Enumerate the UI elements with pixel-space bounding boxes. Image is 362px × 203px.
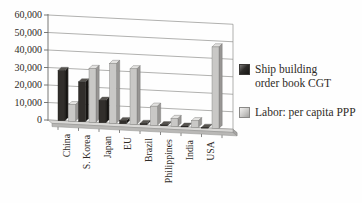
y-tick-label: 20,000 [15, 79, 43, 90]
category-label: Brazil [143, 138, 154, 162]
bar-cgt-usa [202, 127, 209, 128]
gridline [48, 33, 233, 42]
legend-line: order book CGT [255, 77, 331, 89]
y-tick-label: 0 [37, 114, 42, 125]
legend-key-light-icon [239, 107, 250, 118]
bar-ppp-japan-side [117, 60, 120, 123]
bar-ppp-brazil-side [158, 103, 161, 125]
bar-ppp-brazil [151, 106, 158, 125]
bar-cgt-china-side [65, 67, 68, 120]
gridline [48, 85, 233, 94]
legend-line: Labor: per capita PPP [255, 106, 356, 118]
bar-cgt-skorea [79, 82, 86, 122]
bar-cgt-skorea-side [86, 79, 89, 122]
category-label: India [184, 139, 195, 160]
bar-ppp-usa [212, 47, 219, 128]
bar-ppp-eu-side [137, 66, 140, 125]
bar-cgt-eu [120, 121, 127, 124]
gridline [48, 15, 233, 24]
bar-ppp-india [192, 121, 199, 128]
gridline [48, 50, 233, 59]
bar-cgt-india [181, 126, 188, 127]
chart-legend: Ship buildingorder book CGT Labor: per c… [239, 62, 361, 134]
legend-item-labor-ppp: Labor: per capita PPP [239, 105, 361, 119]
bar-ppp-philippines [171, 119, 178, 127]
bar-ppp-skorea [89, 69, 96, 123]
legend-key-dark-icon [239, 64, 250, 75]
bar-cgt-japan-side [106, 97, 109, 123]
bar-cgt-philippines [161, 125, 168, 126]
y-tick-label: 50,000 [15, 27, 43, 38]
legend-label-ship-building: Ship buildingorder book CGT [255, 62, 331, 90]
y-tick-label: 40,000 [15, 44, 43, 55]
category-label: China [61, 133, 72, 157]
category-label: USA [205, 141, 216, 161]
bar-cgt-brazil [140, 123, 147, 124]
bar-ppp-skorea-side [96, 65, 99, 122]
bar-ppp-china-side [76, 102, 79, 122]
bar-ppp-eu [130, 69, 137, 124]
bar-cgt-japan [99, 100, 106, 123]
category-label: EU [123, 137, 134, 150]
legend-label-labor-ppp: Labor: per capita PPP [255, 105, 356, 119]
y-tick-label: 30,000 [15, 62, 43, 73]
bar-cgt-china [58, 70, 65, 120]
chart-figure: 010,00020,00030,00040,00050,00060,000Chi… [0, 0, 362, 203]
y-tick-label: 60,000 [15, 9, 43, 20]
category-label: Japan [102, 136, 113, 158]
category-label: Philippines [164, 139, 175, 183]
category-label: S. Korea [82, 134, 93, 169]
bar-ppp-china [69, 105, 76, 121]
bar-ppp-usa-side [219, 44, 222, 129]
y-tick-label: 10,000 [15, 97, 43, 108]
legend-item-ship-building: Ship buildingorder book CGT [239, 62, 361, 90]
bar-ppp-japan [110, 63, 117, 123]
legend-line: Ship building [255, 63, 317, 75]
gridline [48, 68, 233, 77]
